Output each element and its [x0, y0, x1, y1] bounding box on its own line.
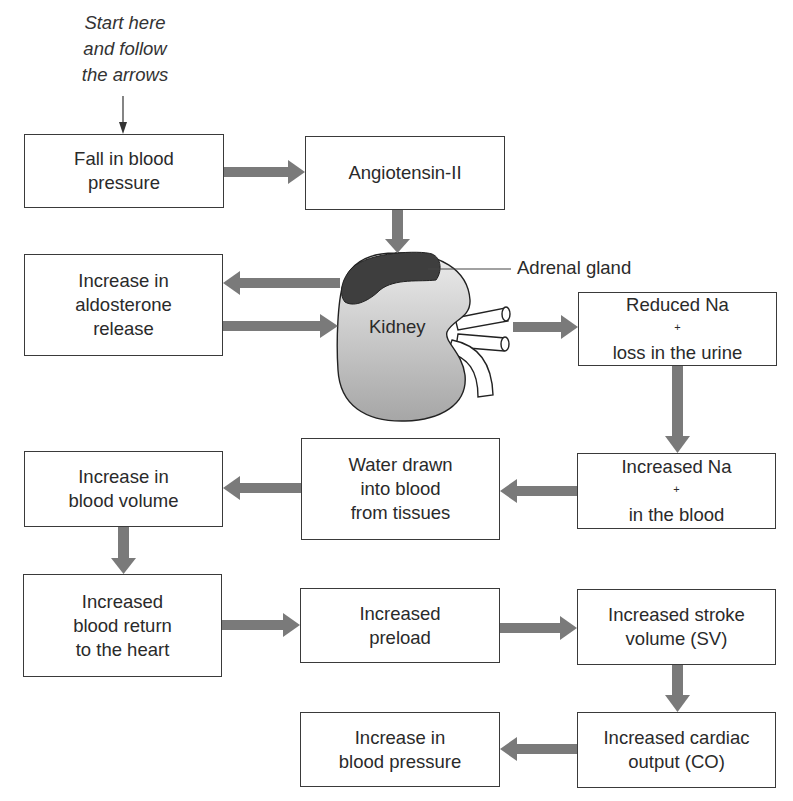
arrow-down-icon	[111, 526, 136, 574]
arrow-right-icon	[223, 160, 305, 184]
box-text: loss in the urine	[613, 341, 743, 365]
box-text: into blood	[348, 477, 452, 501]
box-fall-in-blood-pressure: Fall in blood pressure	[24, 134, 224, 208]
box-text: Angiotensin-II	[348, 161, 461, 185]
box-text: Increased	[359, 602, 440, 626]
box-text: output (CO)	[603, 750, 749, 774]
arrow-left-icon	[500, 737, 577, 761]
box-text: blood pressure	[339, 750, 461, 774]
box-text: blood return	[73, 614, 172, 638]
box-text: Increase in	[75, 269, 172, 293]
box-increased-cardiac-output: Increased cardiac output (CO)	[577, 712, 776, 788]
box-text: Reduced Na	[613, 293, 743, 317]
arrow-down-icon	[665, 664, 690, 712]
box-text: blood volume	[68, 489, 178, 513]
box-text: release	[75, 317, 172, 341]
box-text: pressure	[74, 171, 174, 195]
arrow-down-icon	[385, 209, 410, 253]
arrow-left-icon	[223, 271, 340, 295]
box-text: Water drawn	[348, 453, 452, 477]
box-text: preload	[359, 626, 440, 650]
box-text: in the blood	[621, 503, 731, 527]
start-arrow-icon	[119, 96, 127, 134]
superscript-plus: +	[674, 321, 680, 333]
box-increased-na-blood: Increased Na+ in the blood	[577, 453, 776, 529]
box-text: from tissues	[348, 501, 452, 525]
box-water-drawn: Water drawn into blood from tissues	[301, 438, 500, 540]
box-angiotensin-ii: Angiotensin-II	[305, 136, 505, 210]
box-reduced-na-loss: Reduced Na+ loss in the urine	[578, 292, 777, 366]
box-increase-blood-pressure: Increase in blood pressure	[300, 712, 500, 787]
box-text: Increased Na	[621, 455, 731, 479]
arrow-left-icon	[223, 476, 301, 500]
box-text: Increased	[73, 590, 172, 614]
arrow-down-icon	[665, 365, 690, 453]
box-text: Increased cardiac	[603, 726, 749, 750]
kidney-label: Kidney	[369, 316, 426, 338]
box-increased-stroke-volume: Increased stroke volume (SV)	[577, 589, 776, 665]
box-text: Increase in	[68, 465, 178, 489]
arrow-right-icon	[513, 315, 578, 339]
box-increased-blood-return: Increased blood return to the heart	[23, 574, 222, 677]
adrenal-gland-label: Adrenal gland	[517, 257, 631, 279]
box-text: to the heart	[73, 638, 172, 662]
superscript-plus: +	[673, 483, 679, 495]
box-aldosterone-release: Increase in aldosterone release	[24, 254, 223, 356]
box-text: Increase in	[339, 726, 461, 750]
diagram-graphics	[0, 0, 793, 801]
box-text: volume (SV)	[608, 627, 745, 651]
box-increase-blood-volume: Increase in blood volume	[24, 451, 223, 527]
box-text: aldosterone	[75, 293, 172, 317]
box-text: Fall in blood	[74, 147, 174, 171]
box-text: Increased stroke	[608, 603, 745, 627]
arrow-left-icon	[500, 479, 577, 503]
box-increased-preload: Increased preload	[300, 588, 500, 663]
arrow-right-icon	[221, 613, 300, 637]
arrow-right-icon	[499, 616, 577, 640]
arrow-right-icon	[222, 314, 338, 338]
